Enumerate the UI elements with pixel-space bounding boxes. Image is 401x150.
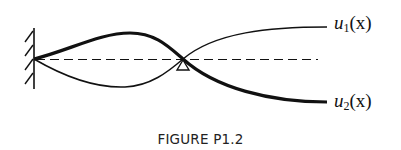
u2-label-arg: (x) — [350, 90, 372, 111]
figure-caption: FIGURE P1.2 — [0, 131, 401, 147]
u1-label-base: u — [334, 12, 344, 33]
u1-label: u1(x) — [334, 13, 372, 34]
fixed-wall-support — [25, 28, 34, 89]
u1-label-arg: (x) — [350, 12, 372, 33]
u2-label: u2(x) — [334, 91, 372, 112]
u2-label-base: u — [334, 90, 344, 111]
